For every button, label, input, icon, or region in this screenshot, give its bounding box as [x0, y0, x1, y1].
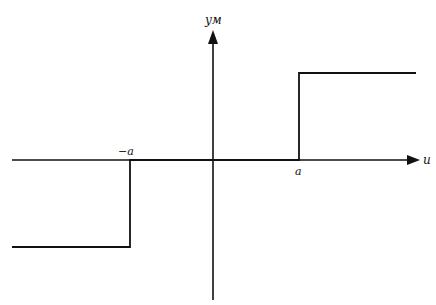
- y-axis-arrow-icon: [208, 30, 218, 44]
- pos-a-label: a: [295, 165, 302, 178]
- neg-a-label: −a: [118, 145, 134, 158]
- y-axis-label: yм: [204, 13, 222, 27]
- u-axis-arrow-icon: [407, 155, 420, 165]
- diagram-canvas: yм u −a a: [0, 0, 436, 305]
- u-axis-label: u: [423, 153, 431, 167]
